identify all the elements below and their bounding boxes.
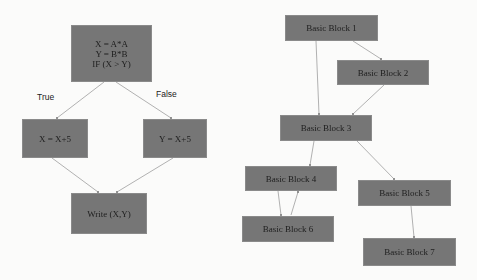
node-false-branch: Y = X+5 <box>143 119 207 158</box>
control-flow-diagrams: X = A*A Y = B*B IF (X > Y) X = X+5 Y = X… <box>0 0 477 280</box>
edge-bb2-to-bb3 <box>353 85 384 114</box>
edge-bb3-to-bb5 <box>357 141 394 179</box>
node-basic-block-3: Basic Block 3 <box>280 115 372 141</box>
edge-bb1-to-bb2 <box>353 41 381 59</box>
edge-bb1-to-bb3 <box>316 41 319 114</box>
edge-label-true: True <box>37 92 54 102</box>
node-entry: X = A*A Y = B*B IF (X > Y) <box>71 25 152 82</box>
edge-bb4-to-bb6 <box>278 191 281 215</box>
node-basic-block-6: Basic Block 6 <box>242 216 334 242</box>
node-basic-block-4: Basic Block 4 <box>245 166 337 191</box>
node-write: Write (X,Y) <box>71 193 147 234</box>
node-basic-block-5: Basic Block 5 <box>358 180 451 206</box>
edge-bb3-to-bb4 <box>310 141 314 165</box>
edge-bb6-to-bb4 <box>291 192 298 215</box>
edge-false-to-write <box>117 158 173 192</box>
node-true-branch: X = X+5 <box>22 119 88 158</box>
edge-entry-to-false <box>116 82 171 118</box>
edge-label-false: False <box>156 89 177 99</box>
node-basic-block-7: Basic Block 7 <box>363 238 456 266</box>
edge-entry-to-true <box>57 82 104 118</box>
edge-bb5-to-bb7 <box>411 206 414 237</box>
node-basic-block-1: Basic Block 1 <box>285 15 378 41</box>
node-basic-block-2: Basic Block 2 <box>337 60 429 85</box>
edge-true-to-write <box>52 158 98 192</box>
